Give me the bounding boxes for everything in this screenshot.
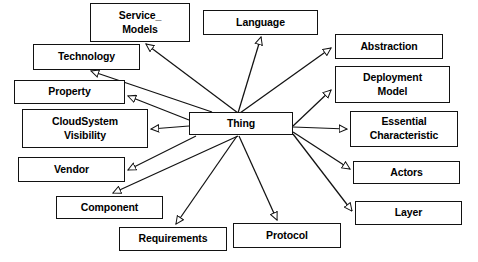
edge-thing-to-language [238,37,261,113]
edge-thing-to-service-models [146,44,238,113]
class-node-vendor[interactable]: Vendor [18,157,125,182]
class-node-technology[interactable]: Technology [33,44,140,70]
class-node-component[interactable]: Component [56,196,163,219]
class-node-label: Vendor [52,163,91,177]
edge-thing-to-essential-characteristic [293,127,347,129]
class-node-label: Language [234,16,287,30]
class-node-actors[interactable]: Actors [353,161,460,184]
edge-thing-to-actors [293,132,350,169]
class-node-label: Property [46,85,92,99]
class-node-requirements[interactable]: Requirements [119,227,227,251]
edge-thing-to-deployment-model [293,90,331,126]
class-node-label: Actors [388,166,425,180]
class-node-cloudsystem-visibility[interactable]: CloudSystem Visibility [22,109,148,148]
class-node-property[interactable]: Property [14,80,125,104]
class-node-label: Thing [225,117,257,131]
class-node-thing[interactable]: Thing [189,112,293,135]
class-node-label: Abstraction [358,40,419,54]
class-node-protocol[interactable]: Protocol [233,223,341,248]
class-node-language[interactable]: Language [203,10,318,35]
class-node-deployment-model[interactable]: Deployment Model [335,66,450,103]
class-node-label: Component [79,201,140,215]
edge-thing-to-cloudsystem-visibility [151,126,189,129]
class-node-label: Protocol [264,229,310,243]
diagram-canvas: Service_ ModelsLanguageAbstractionTechno… [0,0,478,262]
class-node-label: Essential Characteristic [368,115,441,143]
class-node-service-models[interactable]: Service_ Models [90,3,190,42]
class-node-label: Deployment Model [361,71,424,99]
class-node-label: Layer [393,206,425,220]
edge-thing-to-layer [293,134,352,211]
class-node-label: Technology [56,50,117,64]
edge-thing-to-requirements [176,136,237,224]
class-node-label: CloudSystem Visibility [50,115,120,143]
class-node-abstraction[interactable]: Abstraction [335,34,443,59]
edge-thing-to-protocol [239,136,277,220]
class-node-essential-characteristic[interactable]: Essential Characteristic [350,111,458,147]
class-node-label: Service_ Models [117,9,163,37]
class-node-layer[interactable]: Layer [355,201,462,225]
class-node-label: Requirements [137,232,210,246]
